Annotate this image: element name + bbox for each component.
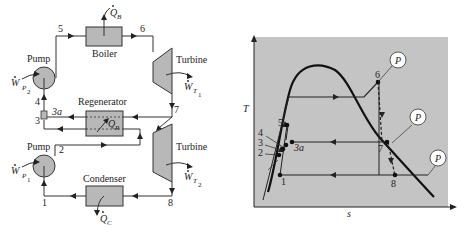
state-4: 4: [35, 96, 40, 107]
flow-arrow-icon: [169, 188, 175, 194]
flow-arrow-icon: [132, 114, 138, 120]
svg-text:B: B: [117, 13, 122, 21]
arrow-icon: [101, 14, 107, 20]
flow-arrow-icon: [68, 114, 74, 120]
boiler-label: Boiler: [92, 48, 118, 59]
x-axis-arrow-icon: [450, 204, 457, 210]
ts-diagram: T s: [243, 35, 457, 219]
pump-upper-label: Pump: [27, 53, 50, 64]
ts-state-2: 2: [258, 147, 263, 158]
wp1-label: W: [11, 165, 21, 176]
condenser: [86, 186, 123, 206]
svg-text:2: 2: [27, 88, 31, 96]
turbine-hp-label: Turbine: [176, 54, 208, 65]
point-2: [277, 153, 282, 158]
state-6: 6: [140, 23, 145, 34]
pump-lower-label: Pump: [27, 141, 50, 152]
svg-text:P: P: [394, 55, 401, 66]
state-3: 3: [35, 115, 40, 126]
ts-state-3a: 3a: [293, 142, 304, 153]
cycle-schematic: Boiler Q B Turbine W T 1 Pump W P 2 Rege…: [11, 5, 208, 227]
flow-arrow-icon: [101, 142, 107, 148]
point-4: [284, 143, 289, 148]
svg-text:C: C: [107, 219, 112, 227]
y-axis-label: T: [243, 103, 250, 114]
dot-icon: [14, 76, 16, 78]
flow-arrow-icon: [131, 33, 137, 39]
turbine-lp-label: Turbine: [176, 141, 208, 152]
point-7: [385, 140, 390, 145]
state-2: 2: [59, 144, 64, 155]
svg-text:P: P: [434, 153, 441, 164]
dot-icon: [102, 211, 104, 213]
ts-state-1: 1: [281, 176, 286, 187]
flow-arrow-icon: [68, 33, 74, 39]
condenser-label: Condenser: [83, 173, 126, 184]
ts-state-7: 7: [378, 143, 383, 154]
state-7: 7: [174, 104, 179, 115]
state-1: 1: [42, 197, 47, 208]
flow-arrow-icon: [137, 133, 143, 139]
svg-text:2: 2: [198, 181, 202, 189]
flow-arrow-icon: [57, 126, 63, 132]
mixing-chamber: [41, 111, 47, 119]
dot-icon: [112, 5, 114, 7]
flow-arrow-icon: [41, 94, 47, 100]
turbine-lp: [153, 124, 172, 182]
dot-icon: [187, 80, 189, 82]
ts-state-5: 5: [278, 117, 283, 128]
dot-icon: [187, 170, 189, 172]
state-5: 5: [58, 23, 63, 34]
ts-state-6: 6: [375, 69, 380, 80]
point-3: [281, 147, 286, 152]
point-8: [393, 173, 398, 178]
arrow-icon: [187, 73, 193, 79]
svg-text:1: 1: [27, 176, 31, 184]
svg-text:R: R: [114, 124, 120, 132]
arrow-icon: [187, 163, 193, 169]
flow-arrow-icon: [41, 180, 47, 186]
point-5: [285, 123, 290, 128]
state-3a: 3a: [51, 106, 62, 117]
turbine-hp: [153, 48, 172, 94]
regenerative-rankine-figure: Boiler Q B Turbine W T 1 Pump W P 2 Rege…: [0, 0, 464, 234]
svg-text:P: P: [414, 112, 421, 123]
ts-state-8: 8: [391, 178, 396, 189]
dot-icon: [14, 164, 16, 166]
flow-arrow-icon: [70, 193, 76, 199]
regenerator-label: Regenerator: [78, 96, 128, 107]
flow-arrow-icon: [132, 193, 138, 199]
state-8: 8: [168, 197, 173, 208]
x-axis-label: s: [347, 208, 351, 219]
wp2-label: W: [11, 77, 21, 88]
svg-text:1: 1: [198, 91, 202, 99]
